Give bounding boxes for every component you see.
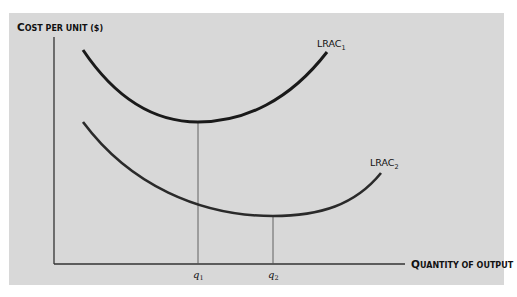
lrac2-curve: [83, 122, 381, 216]
x-axis-label: QUANTITY OF OUTPUT: [411, 258, 514, 270]
y-axis-label: COST PER UNIT ($): [17, 21, 103, 33]
lrac1-curve: [83, 50, 327, 122]
q1-tick-label: q1: [193, 269, 204, 282]
q2-tick-label: q2: [268, 269, 279, 282]
lrac1-label: LRAC1: [317, 38, 346, 52]
lrac2-label: LRAC2: [370, 157, 399, 171]
lrac-diagram: COST PER UNIT ($) QUANTITY OF OUTPUT LRA…: [0, 0, 517, 297]
